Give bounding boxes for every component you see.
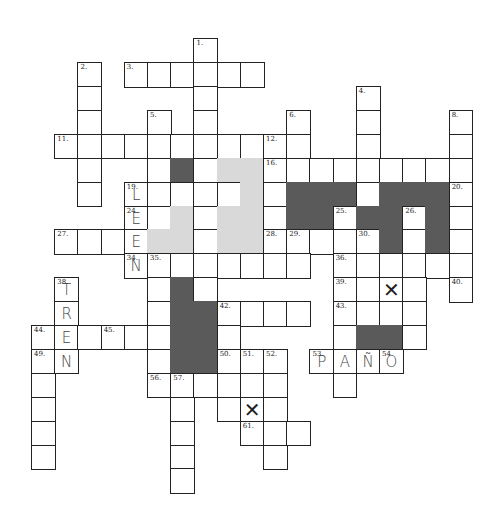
- crossword-cell[interactable]: [402, 325, 427, 350]
- crossword-cell[interactable]: [77, 325, 102, 350]
- crossword-cell[interactable]: [449, 134, 474, 159]
- crossword-cell[interactable]: 29.: [286, 229, 311, 254]
- crossword-cell[interactable]: [31, 421, 56, 446]
- crossword-cell[interactable]: 20.: [449, 182, 474, 207]
- crossword-cell[interactable]: [147, 206, 172, 231]
- crossword-cell[interactable]: [425, 158, 450, 183]
- crossword-cell[interactable]: [170, 134, 195, 159]
- crossword-cell[interactable]: [333, 229, 358, 254]
- crossword-cell[interactable]: [286, 253, 311, 278]
- crossword-cell[interactable]: 61.: [240, 421, 265, 446]
- crossword-cell[interactable]: ✕: [240, 397, 265, 422]
- crossword-cell[interactable]: [170, 397, 195, 422]
- crossword-cell[interactable]: [425, 253, 450, 278]
- crossword-cell[interactable]: [31, 373, 56, 398]
- crossword-cell[interactable]: [193, 277, 218, 302]
- crossword-cell[interactable]: E: [54, 325, 79, 350]
- crossword-cell[interactable]: E: [124, 229, 149, 254]
- crossword-cell[interactable]: 51.: [240, 349, 265, 374]
- crossword-cell[interactable]: [356, 253, 381, 278]
- crossword-cell[interactable]: 24.E: [124, 206, 149, 231]
- crossword-cell[interactable]: [193, 158, 218, 183]
- crossword-cell[interactable]: [263, 397, 288, 422]
- crossword-cell[interactable]: [286, 158, 311, 183]
- crossword-cell[interactable]: 40.: [449, 277, 474, 302]
- crossword-cell[interactable]: 35.: [147, 253, 172, 278]
- crossword-cell[interactable]: [217, 373, 242, 398]
- crossword-cell[interactable]: [193, 110, 218, 135]
- crossword-cell[interactable]: 25.: [333, 206, 358, 231]
- crossword-cell[interactable]: [402, 229, 427, 254]
- crossword-cell[interactable]: [286, 301, 311, 326]
- crossword-cell[interactable]: [31, 397, 56, 422]
- crossword-cell[interactable]: [309, 229, 334, 254]
- crossword-cell[interactable]: 11.: [54, 134, 79, 159]
- crossword-cell[interactable]: [263, 182, 288, 207]
- crossword-cell[interactable]: [240, 301, 265, 326]
- crossword-cell[interactable]: [356, 277, 381, 302]
- crossword-cell[interactable]: [217, 182, 242, 207]
- crossword-cell[interactable]: [147, 325, 172, 350]
- crossword-cell[interactable]: 1.: [193, 38, 218, 63]
- crossword-cell[interactable]: [31, 445, 56, 470]
- crossword-cell[interactable]: [101, 229, 126, 254]
- crossword-cell[interactable]: [193, 229, 218, 254]
- crossword-cell[interactable]: 53.P: [309, 349, 334, 374]
- crossword-cell[interactable]: 4.: [356, 86, 381, 111]
- crossword-cell[interactable]: [356, 182, 381, 207]
- crossword-cell[interactable]: [263, 253, 288, 278]
- crossword-cell[interactable]: [263, 206, 288, 231]
- crossword-cell[interactable]: [449, 229, 474, 254]
- crossword-cell[interactable]: [77, 182, 102, 207]
- crossword-cell[interactable]: [193, 62, 218, 87]
- crossword-cell[interactable]: [240, 62, 265, 87]
- crossword-cell[interactable]: N: [54, 349, 79, 374]
- crossword-cell[interactable]: [193, 182, 218, 207]
- crossword-cell[interactable]: [147, 134, 172, 159]
- crossword-cell[interactable]: 19.L: [124, 182, 149, 207]
- crossword-cell[interactable]: [240, 134, 265, 159]
- crossword-cell[interactable]: [449, 158, 474, 183]
- crossword-cell[interactable]: [217, 62, 242, 87]
- crossword-cell[interactable]: [263, 373, 288, 398]
- crossword-cell[interactable]: ✕: [379, 277, 404, 302]
- crossword-cell[interactable]: [286, 421, 311, 446]
- crossword-cell[interactable]: 30.: [356, 229, 381, 254]
- crossword-cell[interactable]: [240, 253, 265, 278]
- crossword-cell[interactable]: 16.: [263, 158, 288, 183]
- crossword-cell[interactable]: [449, 253, 474, 278]
- crossword-cell[interactable]: 56.: [147, 373, 172, 398]
- crossword-cell[interactable]: [356, 110, 381, 135]
- crossword-cell[interactable]: [286, 134, 311, 159]
- crossword-cell[interactable]: [170, 182, 195, 207]
- crossword-cell[interactable]: [147, 62, 172, 87]
- crossword-cell[interactable]: [77, 158, 102, 183]
- crossword-cell[interactable]: 45.: [101, 325, 126, 350]
- crossword-cell[interactable]: 54.O: [379, 349, 404, 374]
- crossword-cell[interactable]: [193, 206, 218, 231]
- crossword-cell[interactable]: [333, 158, 358, 183]
- crossword-cell[interactable]: [402, 253, 427, 278]
- crossword-cell[interactable]: [147, 349, 172, 374]
- crossword-cell[interactable]: 50.: [217, 349, 242, 374]
- crossword-cell[interactable]: [263, 445, 288, 470]
- crossword-cell[interactable]: 38.T: [54, 277, 79, 302]
- crossword-cell[interactable]: 8.: [449, 110, 474, 135]
- crossword-cell[interactable]: 57.: [170, 373, 195, 398]
- crossword-cell[interactable]: 42.: [217, 301, 242, 326]
- crossword-cell[interactable]: [217, 325, 242, 350]
- crossword-cell[interactable]: [263, 301, 288, 326]
- crossword-cell[interactable]: 52.: [263, 349, 288, 374]
- crossword-cell[interactable]: [193, 373, 218, 398]
- crossword-cell[interactable]: [170, 421, 195, 446]
- crossword-cell[interactable]: [170, 445, 195, 470]
- crossword-cell[interactable]: 27.: [54, 229, 79, 254]
- crossword-cell[interactable]: 49.: [31, 349, 56, 374]
- crossword-cell[interactable]: [217, 397, 242, 422]
- crossword-cell[interactable]: [170, 253, 195, 278]
- crossword-cell[interactable]: [170, 468, 195, 493]
- crossword-cell[interactable]: [170, 62, 195, 87]
- crossword-cell[interactable]: 28.: [263, 229, 288, 254]
- crossword-cell[interactable]: [147, 182, 172, 207]
- crossword-cell[interactable]: [101, 134, 126, 159]
